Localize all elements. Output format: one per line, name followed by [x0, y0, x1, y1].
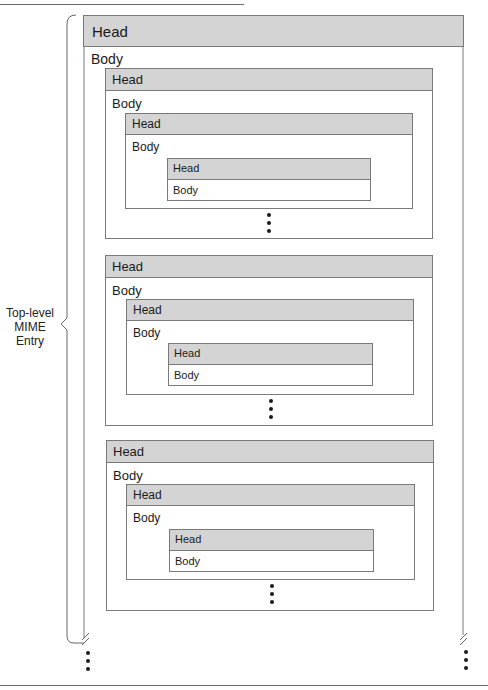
head-label: Head [173, 162, 199, 174]
head-label: Head [92, 23, 128, 40]
ellipsis-dot [270, 584, 274, 588]
body-label: Body [132, 140, 159, 154]
body-label: Body [173, 184, 198, 196]
brace-label-line: Top-level [0, 306, 60, 320]
ellipsis-dot [269, 415, 273, 419]
level2-head: Head [106, 256, 432, 278]
level3-head: Head [127, 300, 413, 321]
body-label: Body [112, 96, 142, 111]
level4-head: Head [170, 530, 373, 551]
level4-head: Head [168, 159, 370, 180]
ellipsis-dot [269, 407, 273, 411]
level4-entry: Head Body [169, 529, 374, 572]
ellipsis-dot [267, 213, 271, 217]
brace-label: Top-level MIME Entry [0, 306, 60, 348]
ellipsis-dot [269, 399, 273, 403]
brace-label-line: Entry [0, 334, 60, 348]
ellipsis-dot [464, 666, 468, 670]
body-label: Body [174, 369, 199, 381]
ellipsis-dot [267, 229, 271, 233]
brace-icon [61, 15, 84, 643]
level3-head: Head [127, 485, 414, 506]
head-label: Head [132, 117, 161, 131]
body-label: Body [113, 468, 143, 483]
ellipsis-dot [86, 651, 90, 655]
body-label: Body [112, 283, 142, 298]
brace-label-line: MIME [0, 320, 60, 334]
head-label: Head [133, 488, 162, 502]
level4-entry: Head Body [167, 158, 371, 201]
ellipsis-dot [270, 592, 274, 596]
ellipsis-dot [267, 221, 271, 225]
ellipsis-dot [86, 659, 90, 663]
level2-head: Head [106, 69, 432, 91]
ellipsis-dot [86, 667, 90, 671]
level4-entry: Head Body [168, 343, 373, 386]
body-label: Body [133, 511, 160, 525]
outer-entry-head: Head [83, 15, 464, 47]
head-label: Head [112, 72, 143, 87]
head-label: Head [174, 347, 200, 359]
body-label: Body [133, 326, 160, 340]
level2-head: Head [107, 441, 433, 463]
outer-body-label: Body [91, 51, 123, 67]
head-label: Head [112, 259, 143, 274]
ellipsis-dot [464, 658, 468, 662]
head-label: Head [175, 533, 201, 545]
ellipsis-dot [464, 650, 468, 654]
head-label: Head [113, 444, 144, 459]
body-label: Body [175, 555, 200, 567]
level3-head: Head [126, 114, 412, 135]
ellipsis-dot [270, 600, 274, 604]
head-label: Head [133, 303, 162, 317]
level4-head: Head [169, 344, 372, 365]
